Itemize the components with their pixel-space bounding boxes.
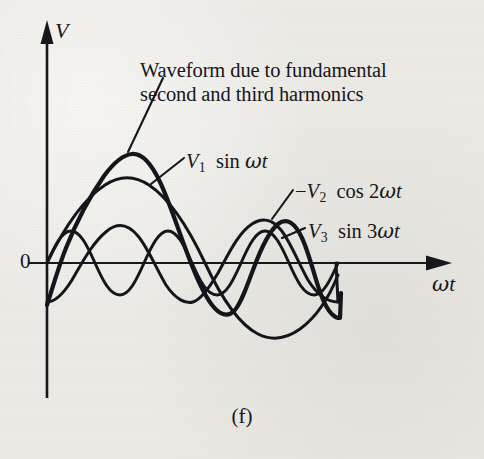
y-axis-label: V bbox=[55, 18, 68, 44]
composite-waveform-annotation: Waveform due to fundamental second and t… bbox=[140, 58, 387, 106]
annotation-line-1: Waveform due to fundamental bbox=[140, 58, 387, 82]
label-fundamental: V1 sin ωt bbox=[186, 149, 267, 176]
label-second-harmonic: −V2 cos 2ωt bbox=[295, 179, 402, 206]
annotation-line-2: second and third harmonics bbox=[140, 82, 387, 106]
label-third-harmonic: V3 sin 3ωt bbox=[308, 219, 400, 246]
x-axis-arrowhead bbox=[426, 256, 452, 271]
curve-right-terminator bbox=[336, 263, 338, 302]
figure-caption: (f) bbox=[0, 404, 484, 429]
x-axis-label: ωt bbox=[432, 272, 455, 297]
y-axis bbox=[41, 20, 54, 398]
y-axis-arrowhead bbox=[41, 20, 54, 44]
origin-label: 0 bbox=[20, 249, 31, 274]
leader-line-second-harmonic bbox=[272, 190, 293, 219]
figure-panel: V ωt 0 Waveform due to fundamental secon… bbox=[0, 0, 484, 459]
